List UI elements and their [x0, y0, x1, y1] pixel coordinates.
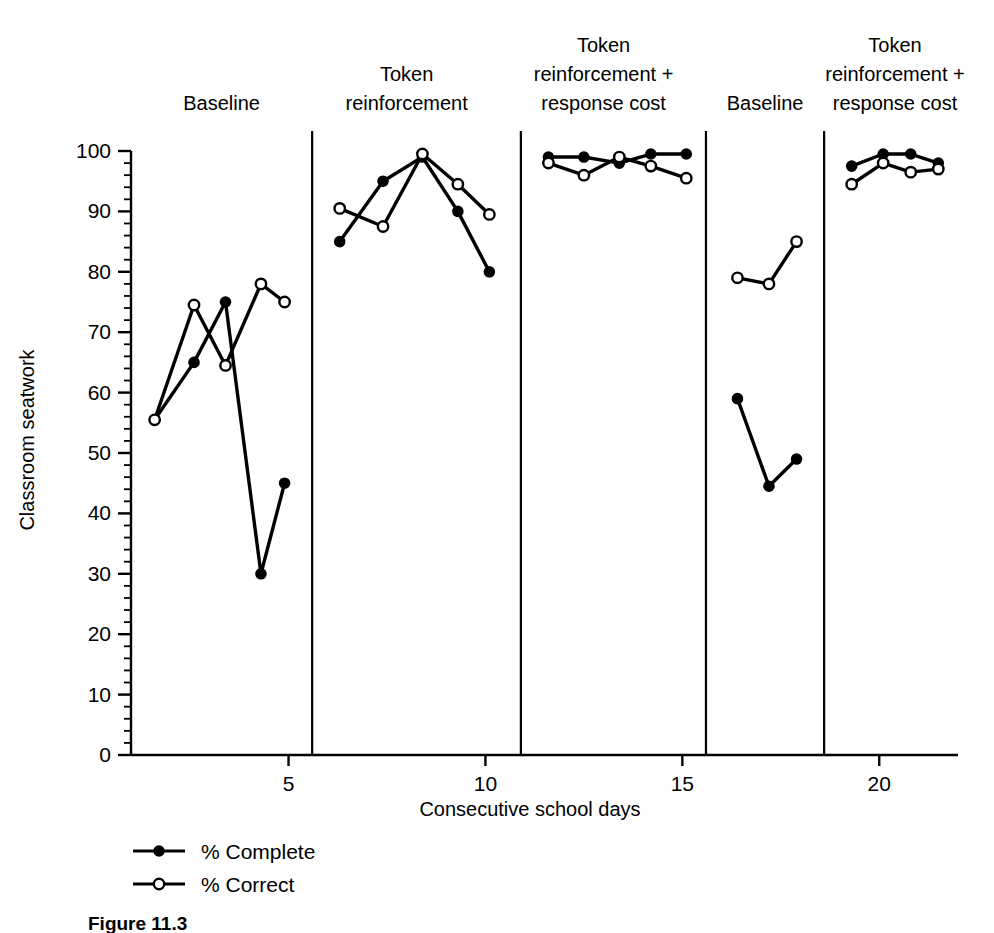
y-axis-tick-label: 20	[88, 622, 111, 645]
y-axis-tick-label: 70	[88, 320, 111, 343]
figure-container: BaselineTokenreinforcementTokenreinforce…	[0, 0, 994, 933]
y-axis-tick-label: 0	[99, 743, 111, 766]
x-axis-title: Consecutive school days	[419, 798, 640, 820]
data-point-open-marker	[614, 152, 624, 162]
legend-open-marker	[154, 879, 164, 889]
data-point-filled-marker	[646, 149, 656, 159]
seatwork-line-chart: BaselineTokenreinforcementTokenreinforce…	[0, 0, 994, 933]
data-point-filled-marker	[378, 176, 388, 186]
data-point-open-marker	[764, 279, 774, 289]
x-axis-tick-label: 15	[671, 772, 694, 795]
data-point-open-marker	[189, 300, 199, 310]
y-axis-tick-label: 40	[88, 501, 111, 524]
y-axis-tick-label: 10	[88, 683, 111, 706]
data-point-filled-marker	[579, 152, 589, 162]
phase-label-4: reinforcement +	[825, 63, 965, 85]
y-axis-tick-label: 90	[88, 199, 111, 222]
data-point-open-marker	[791, 236, 801, 246]
figure-caption: Figure 11.3	[88, 913, 187, 933]
data-point-open-marker	[149, 415, 159, 425]
phase-label-1: Token	[380, 63, 433, 85]
data-point-filled-marker	[847, 161, 857, 171]
x-axis-tick-label: 20	[868, 772, 891, 795]
x-axis-tick-label: 10	[474, 772, 497, 795]
data-point-filled-marker	[732, 394, 742, 404]
data-point-open-marker	[279, 297, 289, 307]
legend-label-text: % Complete	[201, 840, 315, 863]
y-axis-tick-label: 30	[88, 562, 111, 585]
phase-label-4: response cost	[833, 92, 958, 114]
data-point-open-marker	[256, 279, 266, 289]
y-axis-tick-label: 50	[88, 441, 111, 464]
data-point-open-marker	[335, 203, 345, 213]
data-point-open-marker	[646, 161, 656, 171]
y-axis-tick-label: 80	[88, 260, 111, 283]
data-point-filled-marker	[681, 149, 691, 159]
data-point-open-marker	[878, 158, 888, 168]
data-point-filled-marker	[335, 237, 345, 247]
y-axis-tick-label: 100	[76, 139, 111, 162]
phase-label-2: response cost	[541, 92, 666, 114]
y-axis-title: Classroom seatwork	[16, 348, 38, 530]
legend-filled-marker	[154, 846, 164, 856]
data-point-open-marker	[933, 164, 943, 174]
data-point-filled-marker	[906, 149, 916, 159]
phase-label-3: Baseline	[727, 92, 804, 114]
data-point-filled-marker	[256, 569, 266, 579]
data-point-open-marker	[681, 173, 691, 183]
data-point-filled-marker	[453, 206, 463, 216]
data-point-open-marker	[579, 170, 589, 180]
data-point-open-marker	[732, 273, 742, 283]
data-point-filled-marker	[189, 357, 199, 367]
data-point-filled-marker	[484, 267, 494, 277]
data-point-open-marker	[378, 221, 388, 231]
phase-label-1: reinforcement	[346, 92, 469, 114]
phase-label-2: reinforcement +	[534, 63, 674, 85]
phase-label-0: Baseline	[183, 92, 260, 114]
data-point-open-marker	[453, 179, 463, 189]
data-point-filled-marker	[221, 297, 231, 307]
x-axis-tick-label: 5	[283, 772, 295, 795]
legend-label-text: % Correct	[201, 873, 295, 896]
data-point-open-marker	[906, 167, 916, 177]
data-point-open-marker	[543, 158, 553, 168]
data-point-filled-marker	[764, 481, 774, 491]
phase-label-4: Token	[868, 34, 921, 56]
phase-label-2: Token	[577, 34, 630, 56]
data-point-open-marker	[417, 149, 427, 159]
data-point-filled-marker	[792, 454, 802, 464]
data-point-filled-marker	[280, 478, 290, 488]
data-point-open-marker	[846, 179, 856, 189]
y-axis-tick-label: 60	[88, 381, 111, 404]
data-point-open-marker	[484, 209, 494, 219]
data-point-open-marker	[220, 360, 230, 370]
